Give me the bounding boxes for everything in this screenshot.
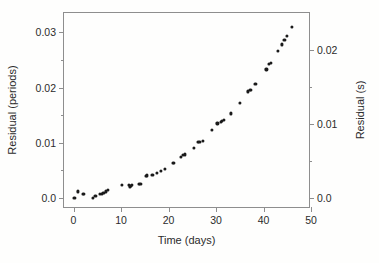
y-axis-right-title: Residual (s) [352, 12, 368, 208]
y-axis-right-tick [309, 198, 314, 199]
x-axis-tick [264, 207, 265, 212]
data-point [283, 38, 286, 41]
x-axis-tick-label: 50 [305, 214, 317, 226]
x-axis-tick-label: 0 [71, 214, 77, 226]
y-axis-right-tick [309, 124, 314, 125]
y-axis-left-minor-tick [61, 170, 64, 171]
x-axis-title: Time (days) [63, 234, 310, 246]
x-axis-tick [74, 207, 75, 212]
y-axis-right-title-text: Residual (s) [354, 81, 366, 140]
y-axis-left-tick [59, 88, 64, 89]
data-point [120, 184, 123, 187]
y-axis-left-tick [59, 32, 64, 33]
x-axis-tick-label: 40 [258, 214, 270, 226]
x-axis-tick [169, 207, 170, 212]
data-point [210, 128, 213, 131]
data-point [82, 192, 85, 195]
x-axis-tick [216, 207, 217, 212]
data-point [164, 167, 167, 170]
data-point [94, 195, 97, 198]
data-point [146, 174, 149, 177]
data-point [265, 68, 268, 71]
x-axis-tick-label: 30 [210, 214, 222, 226]
x-axis-tick [311, 207, 312, 212]
y-axis-right-tick-label: 0.01 [317, 118, 337, 130]
y-axis-left-title: Residual (periods) [4, 12, 20, 208]
data-point [192, 146, 195, 149]
data-point [222, 118, 225, 121]
plot-frame: 0.00.010.020.030.00.010.0201020304050 [63, 12, 310, 208]
y-axis-left-tick [59, 198, 64, 199]
x-axis-tick-label: 10 [115, 214, 127, 226]
data-point [269, 61, 272, 64]
data-point [130, 183, 133, 186]
y-axis-left-minor-tick [61, 60, 64, 61]
data-point [73, 196, 76, 199]
y-axis-right-tick [309, 50, 314, 51]
y-axis-left-tick [59, 143, 64, 144]
data-point [107, 189, 110, 192]
y-axis-left-title-text: Residual (periods) [6, 65, 18, 154]
data-point [230, 112, 233, 115]
data-point [250, 88, 253, 91]
data-point [239, 101, 242, 104]
y-axis-left-tick-label: 0.02 [36, 82, 56, 94]
scatter-chart-figure: Residual (periods) Residual (s) 0.00.010… [0, 0, 379, 263]
data-point [183, 153, 186, 156]
y-axis-right-minor-tick [309, 161, 312, 162]
data-point [139, 182, 142, 185]
data-point [77, 190, 80, 193]
x-axis-tick-label: 20 [163, 214, 175, 226]
data-point [286, 34, 289, 37]
y-axis-right-tick-label: 0.0 [317, 192, 332, 204]
y-axis-left-tick-label: 0.01 [36, 137, 56, 149]
data-point [156, 171, 159, 174]
y-axis-right-minor-tick [309, 87, 312, 88]
y-axis-left-tick-label: 0.03 [36, 26, 56, 38]
data-point [254, 82, 257, 85]
y-axis-right-tick-label: 0.02 [317, 44, 337, 56]
data-point [151, 173, 154, 176]
data-point [201, 139, 204, 142]
y-axis-left-minor-tick [61, 115, 64, 116]
x-axis-tick [121, 207, 122, 212]
data-point [173, 161, 176, 164]
plot-data-area [64, 13, 309, 207]
data-point [280, 43, 283, 46]
data-point [277, 50, 280, 53]
data-point [159, 169, 162, 172]
y-axis-left-tick-label: 0.0 [41, 192, 56, 204]
data-point [290, 25, 293, 28]
